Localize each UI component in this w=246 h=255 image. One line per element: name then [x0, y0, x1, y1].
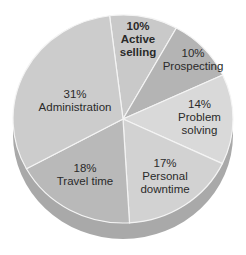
label-personal-downtime: 17% Personal downtime: [135, 157, 195, 196]
label-travel-time: 18% Travel time: [50, 162, 120, 188]
label-prospecting: 10% Prospecting: [158, 47, 228, 73]
label-active-selling: 10% Active selling: [113, 20, 163, 59]
label-problem-solving: 14% Problem solving: [172, 98, 227, 137]
label-administration: 31% Administration: [30, 88, 120, 114]
